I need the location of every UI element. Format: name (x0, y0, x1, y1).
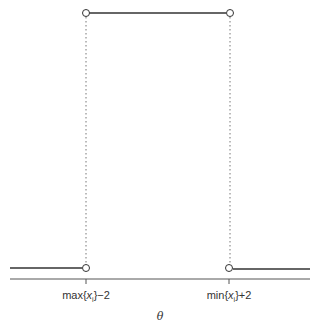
x-tick-label-min: min{xi}+2 (207, 289, 252, 303)
x-axis-title: θ (157, 310, 164, 323)
open-circle-top-right (227, 10, 234, 17)
step-function-plot (0, 0, 320, 327)
open-circle-bottom-left (83, 265, 90, 272)
x-tick-label-max: max{xi}−2 (62, 289, 110, 303)
open-circle-top-left (83, 10, 90, 17)
open-circle-bottom-right (226, 265, 233, 272)
